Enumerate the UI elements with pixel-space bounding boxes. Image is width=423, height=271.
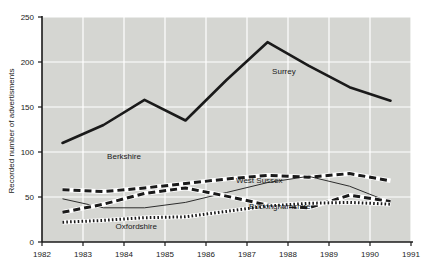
series-label-berkshire: Berkshire (107, 152, 141, 161)
plot-area (42, 17, 411, 242)
y-tick-label: 0 (30, 238, 35, 247)
series-label-oxfordshire: Oxfordshire (116, 222, 158, 231)
series-label-surrey: Surrey (272, 67, 296, 76)
y-axis-ticks: 050100150200250 (21, 13, 42, 247)
y-tick-label: 250 (21, 13, 35, 22)
y-tick-label: 100 (21, 148, 35, 157)
x-tick-label: 1982 (33, 250, 51, 259)
plot-background (42, 17, 411, 242)
x-tick-label: 1986 (197, 250, 215, 259)
series-label-west-sussex: West Sussex (236, 176, 283, 185)
y-tick-label: 50 (25, 193, 34, 202)
x-axis-ticks: 1982198319841985198619871988198919901991 (33, 242, 420, 259)
x-tick-label: 1989 (320, 250, 338, 259)
y-tick-label: 150 (21, 103, 35, 112)
y-axis-title: Recorded number of advertisments (7, 69, 16, 194)
x-tick-label: 1984 (115, 250, 133, 259)
y-tick-label: 200 (21, 58, 35, 67)
x-tick-label: 1987 (238, 250, 256, 259)
x-tick-label: 1985 (156, 250, 174, 259)
x-tick-label: 1991 (402, 250, 420, 259)
chart-container: 050100150200250 198219831984198519861987… (0, 0, 423, 271)
x-tick-label: 1983 (74, 250, 92, 259)
series-label-buckinghamshire: Buckinghamshire (249, 202, 311, 211)
x-tick-label: 1990 (361, 250, 379, 259)
x-tick-label: 1988 (279, 250, 297, 259)
line-chart: 050100150200250 198219831984198519861987… (0, 0, 423, 271)
